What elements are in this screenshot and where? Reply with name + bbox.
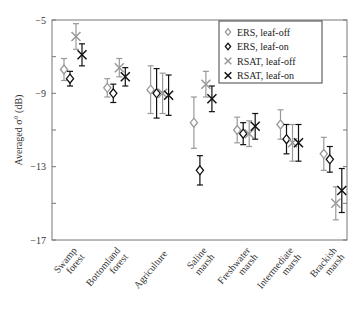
data-point — [234, 117, 241, 143]
data-point — [320, 137, 327, 170]
data-point — [153, 69, 160, 119]
data-point — [251, 114, 260, 140]
y-tick-label: −5 — [35, 15, 46, 26]
diamond-marker-icon — [190, 118, 197, 127]
y-axis-label: Averaged σ° (dB) — [13, 95, 25, 166]
x-category-label: Bottomlandforest — [84, 245, 131, 295]
data-point — [201, 71, 210, 97]
x-category-label: Brackishmarsh — [308, 245, 347, 286]
chart: −5−9−13−17SwampforestBottomlandforestAgr… — [0, 0, 361, 315]
data-point — [331, 187, 340, 220]
data-point — [326, 147, 333, 173]
y-tick-label: −13 — [30, 161, 46, 172]
legend-label: ERS, leaf-on — [237, 41, 289, 52]
x-category-label: Salinemarsh — [184, 245, 217, 278]
data-point — [196, 156, 203, 185]
data-point — [72, 24, 81, 50]
legend-label: RSAT, leaf-on — [237, 70, 294, 81]
data-point — [207, 86, 216, 112]
diamond-marker-icon — [196, 166, 203, 175]
diamond-marker-icon — [326, 155, 333, 164]
x-category-label: Agriculture — [131, 248, 169, 291]
legend: ERS, leaf-offERS, leaf-onRSAT, leaf-offR… — [219, 21, 322, 83]
diamond-marker-icon — [277, 120, 284, 129]
data-point — [294, 125, 303, 162]
legend-label: ERS, leaf-off — [237, 27, 291, 38]
data-point — [288, 125, 297, 162]
legend-label: RSAT, leaf-off — [237, 56, 296, 67]
data-point — [78, 44, 87, 66]
diamond-marker-icon — [66, 74, 73, 83]
diamond-marker-icon — [110, 89, 117, 98]
y-tick-label: −9 — [35, 88, 46, 99]
diamond-marker-icon — [60, 65, 67, 74]
data-point — [190, 97, 197, 148]
x-category-label: Swampforest — [51, 245, 87, 282]
x-category-label: Freshwatermarsh — [215, 244, 260, 292]
data-point — [66, 71, 73, 86]
x-category-label: Intermediatemarsh — [255, 245, 304, 298]
diamond-marker-icon — [320, 149, 327, 158]
data-point — [60, 59, 67, 81]
y-tick-label: −17 — [30, 235, 46, 246]
diamond-marker-icon — [104, 83, 111, 92]
svg-text:Agriculture: Agriculture — [131, 248, 169, 291]
data-point — [240, 123, 247, 145]
data-point — [147, 66, 154, 114]
data-point — [277, 110, 284, 139]
